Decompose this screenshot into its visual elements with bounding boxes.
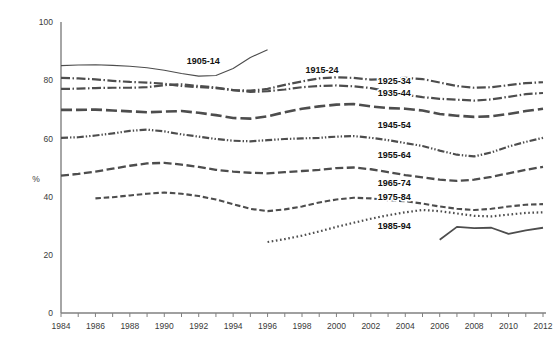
x-tick-label: 2012 (534, 321, 553, 331)
x-tick-label: 2002 (361, 321, 380, 331)
x-tick-label: 2008 (465, 321, 484, 331)
chart-canvas: 020406080100% 19841986198819901992199419… (0, 0, 558, 355)
x-tick-label: 1992 (189, 321, 208, 331)
y-tick-label: 0 (48, 308, 53, 318)
series-line-1935-44 (61, 104, 543, 119)
x-tick-label: 1986 (86, 321, 105, 331)
x-tick-label: 2000 (327, 321, 346, 331)
series-label-1935-44: 1935-44 (378, 88, 411, 98)
y-tick-label: 80 (44, 75, 54, 85)
series-line-1905-14 (61, 50, 268, 76)
y-tick-label: 100 (39, 17, 53, 27)
y-axis: 020406080100% (32, 17, 61, 318)
series-label-1915-24: 1915-24 (305, 65, 338, 75)
x-tick-label: 2006 (430, 321, 449, 331)
series-line-1945-54 (61, 130, 543, 157)
series-label-1955-64: 1955-64 (378, 150, 411, 160)
series-line-1925-34 (61, 77, 543, 90)
y-tick-label: 40 (44, 192, 54, 202)
series-line-1985-94 (440, 227, 543, 240)
x-tick-label: 1990 (155, 321, 174, 331)
x-tick-label: 1988 (120, 321, 139, 331)
y-axis-title: % (32, 174, 40, 184)
series-label-1905-14: 1905-14 (187, 56, 220, 66)
series-lines (61, 50, 543, 242)
series-line-1965-74 (95, 193, 543, 212)
x-tick-label: 1996 (258, 321, 277, 331)
series-line-1915-24 (61, 78, 543, 101)
x-tick-label: 1998 (293, 321, 312, 331)
series-line-1955-64 (61, 163, 543, 181)
x-tick-label: 1984 (52, 321, 71, 331)
x-tick-label: 2004 (396, 321, 415, 331)
y-tick-label: 60 (44, 134, 54, 144)
y-tick-label: 20 (44, 250, 54, 260)
series-label-1945-54: 1945-54 (378, 120, 411, 130)
x-axis: 1984198619881990199219941996199820002002… (52, 313, 553, 331)
series-label-1985-94: 1985-94 (378, 221, 411, 231)
series-label-1975-84: 1975-84 (378, 192, 411, 202)
x-tick-label: 1994 (224, 321, 243, 331)
x-tick-label: 2010 (499, 321, 518, 331)
series-label-1965-74: 1965-74 (378, 178, 411, 188)
series-label-1925-34: 1925-34 (378, 76, 411, 86)
line-chart: 020406080100% 19841986198819901992199419… (0, 0, 558, 355)
